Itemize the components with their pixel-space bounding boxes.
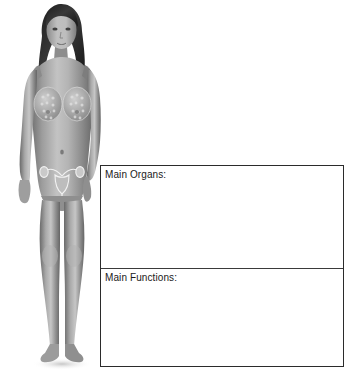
ovary-right: [76, 167, 84, 178]
mammary-gland-left: [34, 87, 62, 121]
figure-caption: [2, 379, 354, 389]
hand-left: [19, 180, 31, 203]
eye-left: [52, 28, 57, 31]
main-functions-section: Main Functions:: [101, 269, 343, 368]
worksheet-page: Main Organs: Main Functions:: [0, 0, 356, 389]
knee-right: [66, 245, 82, 267]
main-organs-section: Main Organs:: [101, 166, 343, 269]
main-functions-answer-area[interactable]: [105, 287, 339, 365]
answer-box: Main Organs: Main Functions:: [100, 165, 344, 367]
main-organs-label: Main Organs:: [105, 169, 166, 180]
nipple-right: [75, 110, 79, 114]
knee-left: [42, 245, 58, 267]
mammary-gland-right: [63, 87, 91, 121]
navel: [60, 149, 64, 154]
leg-left: [40, 200, 60, 346]
ovary-left: [40, 167, 48, 178]
main-functions-label: Main Functions:: [105, 272, 177, 283]
nipple-left: [46, 110, 50, 114]
main-organs-answer-area[interactable]: [105, 184, 339, 265]
leg-right: [64, 200, 84, 346]
eye-right: [65, 28, 70, 31]
